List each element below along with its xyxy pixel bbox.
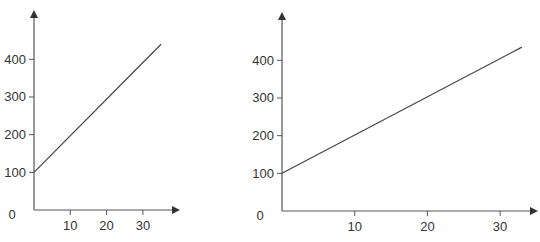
y-tick-label: 100 <box>4 165 26 180</box>
x-axis-arrow-icon <box>530 207 538 215</box>
x-tick-label: 20 <box>420 219 434 234</box>
y-tick-label: 100 <box>252 166 274 181</box>
data-line <box>34 44 161 172</box>
y-axis-arrow-icon <box>278 12 286 20</box>
x-tick-label: 20 <box>99 218 113 233</box>
x-axis-arrow-icon <box>172 206 180 214</box>
y-tick-label: 300 <box>4 89 26 104</box>
y-tick-label: 400 <box>252 53 274 68</box>
figure: 0100200300400102030 0100200300400102030 <box>0 0 540 242</box>
y-axis-arrow-icon <box>30 10 38 18</box>
y-tick-label: 0 <box>8 207 15 222</box>
y-tick-label: 300 <box>252 90 274 105</box>
y-tick-label: 0 <box>256 208 263 223</box>
y-tick-label: 200 <box>4 127 26 142</box>
x-tick-label: 10 <box>347 219 361 234</box>
x-tick-label: 10 <box>63 218 77 233</box>
chart-right: 0100200300400102030 <box>252 12 538 234</box>
y-tick-label: 200 <box>252 128 274 143</box>
chart-left: 0100200300400102030 <box>4 10 180 233</box>
x-tick-label: 30 <box>136 218 150 233</box>
x-tick-label: 30 <box>493 219 507 234</box>
y-tick-label: 400 <box>4 52 26 67</box>
data-line <box>282 47 522 173</box>
